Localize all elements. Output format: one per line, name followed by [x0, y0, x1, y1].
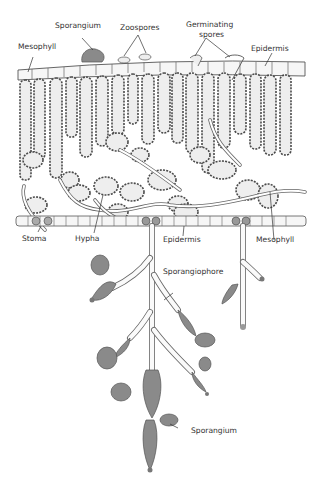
label-germinating-line1: Germinating	[186, 20, 233, 29]
label-zoospores: Zoospores	[120, 23, 160, 32]
label-hypha: Hypha	[75, 234, 100, 243]
label-sporangiophore: Sporangiophore	[163, 267, 224, 276]
label-sporangium-top: Sporangium	[55, 21, 101, 30]
label-mesophyll-bottom: Mesophyll	[256, 235, 294, 244]
label-stoma: Stoma	[22, 234, 47, 243]
lower-epidermis	[16, 216, 306, 226]
label-sporangium-bottom: Sporangium	[191, 426, 237, 435]
label-epidermis-bottom: Epidermis	[163, 235, 201, 244]
label-mesophyll-top: Mesophyll	[18, 42, 56, 51]
palisade-mesophyll	[20, 73, 291, 180]
label-germinating-line2: spores	[199, 30, 224, 39]
stoma-guard-cell	[32, 217, 40, 225]
label-epidermis-top: Epidermis	[251, 44, 289, 53]
leaf-cross-section-diagram: Sporangium Zoospores Germinating spores …	[0, 0, 317, 479]
